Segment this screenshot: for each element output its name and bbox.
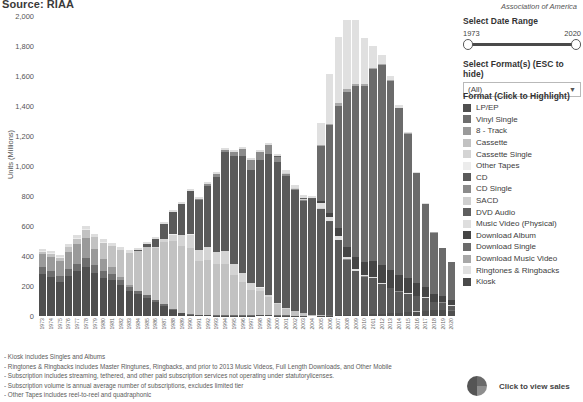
bar-column[interactable] [186,16,195,316]
legend-item[interactable]: Download Album [463,230,581,242]
bar-segment [152,239,160,247]
bar-column[interactable] [212,16,221,316]
legend-item[interactable]: 8 - Track [463,125,581,137]
legend-item[interactable]: CD [463,172,581,184]
bar-segment [47,277,55,316]
bar-column[interactable] [421,16,430,316]
bar-column[interactable] [151,16,160,316]
x-axis-tick: 1989 [177,318,186,354]
view-sales-cta[interactable]: Click to view sales [462,374,570,398]
bar-segment [448,311,456,316]
bar-column[interactable] [203,16,212,316]
legend-item-label: Vinyl Single [476,115,518,124]
bar-segment [213,264,221,315]
bar-column[interactable] [38,16,47,316]
bar-column[interactable] [264,16,273,316]
legend-item[interactable]: Music Video (Physical) [463,218,581,230]
bar-segment [448,262,456,300]
legend-item[interactable]: Download Single [463,241,581,253]
bar-segment [169,241,177,309]
x-axis-tick: 2002 [290,318,299,354]
bar-column[interactable] [125,16,134,316]
bar-segment [265,297,273,315]
legend-item[interactable]: Cassette [463,137,581,149]
bar-column[interactable] [343,16,352,316]
bar-column[interactable] [290,16,299,316]
bar-column[interactable] [247,16,256,316]
date-range-slider[interactable] [463,39,581,50]
bar-column[interactable] [99,16,108,316]
bar-column[interactable] [369,16,378,316]
bar-column[interactable] [334,16,343,316]
bar-segment [247,170,255,283]
slider-handle-min[interactable] [463,39,473,50]
legend-item[interactable]: Vinyl Single [463,114,581,126]
bar-column[interactable] [169,16,178,316]
bar-column[interactable] [160,16,169,316]
legend-item[interactable]: Cassette Single [463,148,581,160]
bar-segment [291,190,299,310]
legend-item-label: DVD Audio [476,208,515,217]
bar-column[interactable] [308,16,317,316]
bar-column[interactable] [256,16,265,316]
bar-column[interactable] [177,16,186,316]
bar-column[interactable] [404,16,413,316]
x-axis-tick: 2019 [438,318,447,354]
bar-column[interactable] [412,16,421,316]
legend-swatch-icon [463,197,471,205]
legend-item[interactable]: Ringtones & Ringbacks [463,264,581,276]
bar-column[interactable] [430,16,439,316]
bar-column[interactable] [238,16,247,316]
bar-column[interactable] [142,16,151,316]
bar-segment [369,314,377,316]
bar-column[interactable] [73,16,82,316]
bar-column[interactable] [325,16,334,316]
bar-column[interactable] [360,16,369,316]
legend-item[interactable]: Download Music Video [463,253,581,265]
bar-column[interactable] [395,16,404,316]
y-axis-tick-label: 600 [21,222,34,231]
bar-column[interactable] [134,16,143,316]
legend-item[interactable]: SACD [463,195,581,207]
bar-segment [126,291,134,317]
bar-segment [404,134,412,279]
bar-column[interactable] [229,16,238,316]
bar-column[interactable] [377,16,386,316]
legend-item[interactable]: DVD Audio [463,206,581,218]
bar-segment [265,145,273,153]
legend-item[interactable]: Kiosk [463,276,581,288]
bar-column[interactable] [386,16,395,316]
bar-column[interactable] [47,16,56,316]
bar-column[interactable] [195,16,204,316]
bar-segment [361,38,369,85]
x-axis-tick: 2012 [377,318,386,354]
bar-segment [65,252,73,269]
bar-column[interactable] [221,16,230,316]
legend-item[interactable]: Other Tapes [463,160,581,172]
bar-segment [256,291,264,315]
x-axis-tick: 1985 [142,318,151,354]
slider-handle-max[interactable] [571,39,581,50]
bar-segment [178,246,186,313]
bar-column[interactable] [55,16,64,316]
bar-column[interactable] [273,16,282,316]
bar-column[interactable] [116,16,125,316]
legend-swatch-icon [463,127,471,135]
bar-segment [335,240,343,315]
bar-segment [335,106,343,229]
bar-column[interactable] [64,16,73,316]
bar-column[interactable] [438,16,447,316]
bar-column[interactable] [447,16,456,316]
bar-segment [317,146,325,201]
bar-segment [387,81,395,270]
x-axis-tick: 2017 [421,318,430,354]
bar-column[interactable] [90,16,99,316]
bar-column[interactable] [282,16,291,316]
bar-column[interactable] [299,16,308,316]
bar-column[interactable] [82,16,91,316]
bar-column[interactable] [108,16,117,316]
bar-column[interactable] [351,16,360,316]
legend-item[interactable]: CD Single [463,183,581,195]
bar-column[interactable] [317,16,326,316]
legend-item[interactable]: LP/EP [463,102,581,114]
